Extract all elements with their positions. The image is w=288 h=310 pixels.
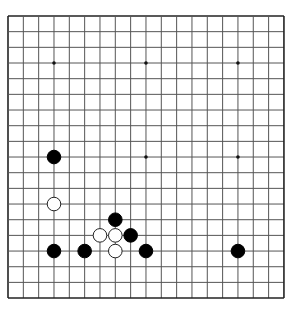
star-point-icon: [52, 61, 56, 65]
white-stone: [93, 229, 107, 243]
black-stone: [78, 244, 92, 258]
white-stone: [47, 197, 61, 211]
black-stone: [124, 229, 138, 243]
star-point-icon: [144, 61, 148, 65]
black-stone: [47, 150, 61, 164]
black-stone: [47, 244, 61, 258]
black-stone: [139, 244, 153, 258]
star-point-icon: [236, 155, 240, 159]
white-stone: [109, 244, 123, 258]
black-stone: [109, 213, 123, 227]
star-point-icon: [144, 155, 148, 159]
star-point-icon: [236, 61, 240, 65]
white-stone: [109, 229, 123, 243]
go-board[interactable]: [0, 0, 288, 310]
black-stone: [231, 244, 245, 258]
